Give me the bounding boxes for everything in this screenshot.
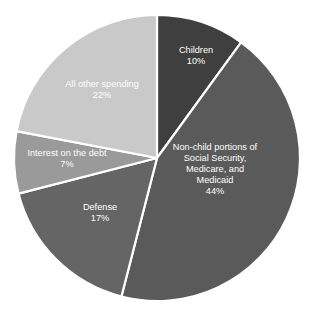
pie-slices-group (14, 15, 300, 301)
pie-slice-percent-all-other-spending: 22% (93, 90, 111, 100)
pie-slice-percent-children: 10% (187, 56, 205, 66)
pie-slice-percent-non-child-entitlements: 44% (206, 186, 224, 196)
pie-slice-percent-interest-on-the-debt: 7% (60, 159, 73, 169)
pie-slice-percent-defense: 17% (91, 213, 109, 223)
pie-chart: Children10%Non-child portions ofSocial S… (0, 0, 319, 314)
pie-chart-canvas: Children10%Non-child portions ofSocial S… (0, 0, 319, 314)
